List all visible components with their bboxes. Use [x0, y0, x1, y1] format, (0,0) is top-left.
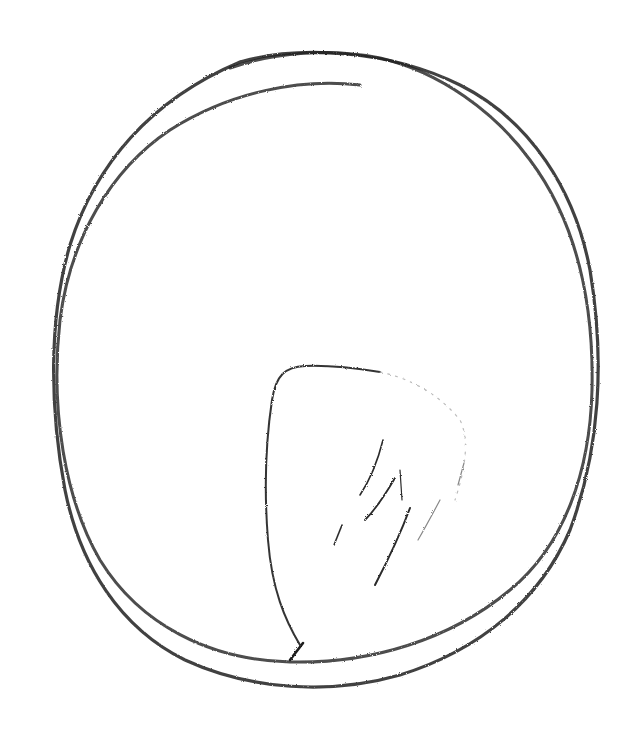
leaf-shape: [266, 366, 466, 660]
inner-oval-stroke: [57, 53, 592, 663]
outer-oval-stroke: [54, 53, 599, 687]
hatch-marks: [334, 440, 464, 585]
